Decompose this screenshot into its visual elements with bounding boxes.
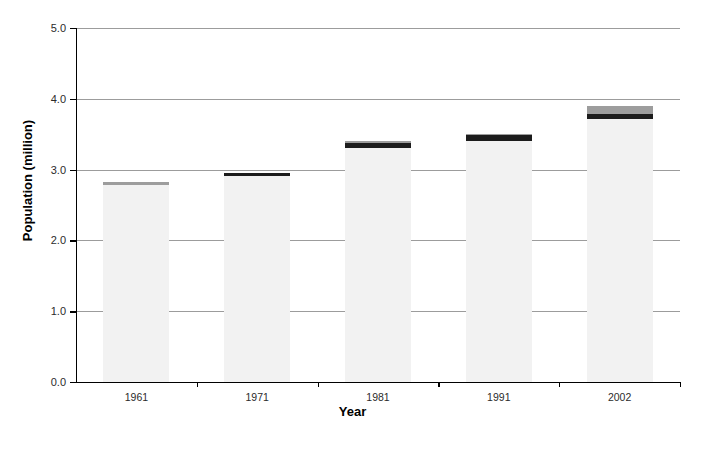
x-tick-label: 1961 [91,391,181,403]
y-tick [70,311,76,312]
bar-1961 [103,182,169,382]
bar-2002 [587,106,653,382]
bar-1981 [345,141,411,382]
plot-area: 0.01.02.03.04.05.0 19611971198119912002 [76,28,680,383]
y-tick [70,382,76,383]
y-tick-label: 1.0 [28,306,66,316]
bar-segment-dark-band [466,135,532,141]
y-tick-label: 0.0 [28,377,66,387]
bar-segment-dark-band [345,143,411,149]
bar-1991 [466,134,532,382]
gridline [77,28,680,29]
bar-segment-main-population [345,148,411,382]
x-axis-line [76,382,680,383]
bar-segment-dark-band [224,173,290,177]
y-tick [70,28,76,29]
bar-segment-main-population [466,141,532,382]
bar-segment-dark-band [587,114,653,120]
bar-segment-main-population [103,185,169,383]
bar-segment-main-population [587,119,653,382]
y-tick-label: 4.0 [28,94,66,104]
y-tick [70,240,76,241]
x-tick [559,382,560,387]
y-tick [70,99,76,100]
bar-segment-grey-band [103,182,169,184]
x-tick [197,382,198,387]
gridline [77,99,680,100]
x-tick-label: 1981 [333,391,423,403]
bar-segment-grey-band [345,141,411,143]
y-tick [70,170,76,171]
y-tick-label: 5.0 [28,23,66,33]
y-axis-line [76,28,77,383]
x-tick-label: 1991 [454,391,544,403]
x-tick-label: 2002 [575,391,665,403]
bar-segment-main-population [224,176,290,382]
bar-segment-grey-band [587,106,653,114]
y-tick-label: 3.0 [28,165,66,175]
bar-1971 [224,172,290,382]
bar-segment-grey-band [466,134,532,135]
x-tick-label: 1971 [212,391,302,403]
x-tick [680,382,681,387]
x-tick [438,382,439,387]
x-axis-title: Year [0,404,705,419]
population-bar-chart: Population (million) 0.01.02.03.04.05.0 … [0,0,705,453]
y-tick-label: 2.0 [28,235,66,245]
x-tick [318,382,319,387]
